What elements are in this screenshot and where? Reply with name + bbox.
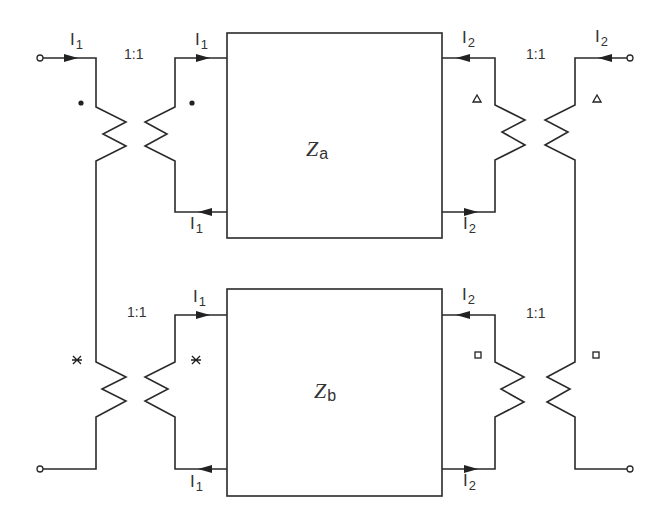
current-arrow-left	[456, 54, 470, 62]
input-terminal-top-left	[37, 55, 43, 61]
current-label-i2: I2	[463, 471, 476, 493]
right-top-secondary-winding	[442, 54, 525, 216]
polarity-cross-icon	[72, 356, 82, 364]
left-primary-winding	[37, 54, 126, 472]
current-label-i1: I1	[190, 472, 203, 494]
current-arrow-left	[198, 208, 212, 216]
transformer-ratio-label: 1:1	[526, 305, 546, 321]
current-label-i1: I1	[190, 214, 203, 236]
current-label-i1: I1	[70, 30, 83, 52]
current-label-i1: I1	[193, 287, 206, 309]
left-top-secondary-winding	[145, 54, 227, 216]
input-terminal-bottom-right	[627, 466, 633, 472]
current-arrow-left	[598, 54, 612, 62]
transformer-ratio-label: 1:1	[526, 46, 546, 62]
current-arrow-right	[196, 54, 210, 62]
polarity-dot-icon	[78, 100, 83, 105]
current-label-i2: I2	[462, 285, 475, 307]
current-arrow-right	[64, 54, 78, 62]
current-label-i1: I1	[195, 30, 208, 52]
polarity-square-icon	[475, 352, 481, 358]
current-arrow-left	[198, 465, 212, 473]
polarity-square-icon	[593, 352, 599, 358]
impedance-block-zb: Zb	[227, 289, 442, 496]
current-label-i2: I2	[463, 214, 476, 236]
circuit-diagram: Za Zb	[0, 0, 670, 518]
right-primary-winding	[545, 54, 633, 472]
polarity-cross-icon	[191, 356, 201, 364]
transformer-ratio-label: 1:1	[127, 304, 147, 320]
transformer-ratio-label: 1:1	[124, 46, 144, 62]
polarity-dot-icon	[189, 100, 194, 105]
impedance-block-za: Za	[227, 33, 442, 238]
polarity-triangle-icon	[473, 95, 481, 102]
current-arrow-right	[196, 311, 210, 319]
current-label-i2: I2	[595, 27, 608, 49]
current-label-i2: I2	[462, 28, 475, 50]
polarity-triangle-icon	[593, 95, 601, 102]
right-bottom-secondary-winding	[442, 311, 524, 473]
left-bottom-secondary-winding	[145, 311, 227, 473]
current-arrow-left	[456, 311, 470, 319]
input-terminal-bottom-left	[37, 466, 43, 472]
input-terminal-top-right	[627, 55, 633, 61]
